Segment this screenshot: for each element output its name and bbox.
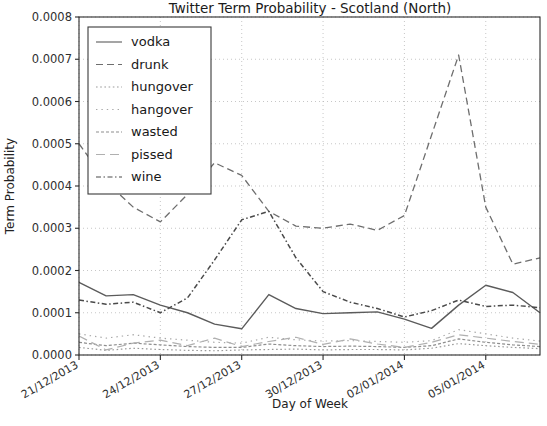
y-tick-label: 0.0008	[32, 10, 72, 24]
x-tick-label: 27/12/2013	[182, 358, 243, 401]
series-line-vodka	[79, 282, 540, 328]
legend-label-drunk: drunk	[131, 57, 169, 72]
series-line-hungover	[79, 344, 540, 351]
legend-label-vodka: vodka	[131, 34, 170, 49]
x-tick-label: 05/01/2014	[426, 358, 487, 401]
x-tick-label: 24/12/2013	[100, 358, 161, 401]
legend-label-wine: wine	[131, 169, 161, 184]
y-axis-ticks: 0.00000.00010.00020.00030.00040.00050.00…	[32, 10, 79, 362]
legend-label-pissed: pissed	[131, 147, 173, 162]
x-axis-ticks: 21/12/201324/12/201327/12/201330/12/2013…	[19, 355, 487, 401]
x-tick-label: 21/12/2013	[19, 358, 80, 401]
legend-label-wasted: wasted	[131, 124, 178, 139]
y-tick-label: 0.0005	[32, 137, 72, 151]
y-tick-label: 0.0003	[32, 221, 72, 235]
chart-title: Twitter Term Probability - Scotland (Nor…	[168, 0, 452, 16]
y-tick-label: 0.0000	[32, 348, 72, 362]
x-tick-label: 02/01/2014	[345, 358, 406, 401]
y-tick-label: 0.0006	[32, 95, 72, 109]
y-tick-label: 0.0007	[32, 52, 72, 66]
chart-figure: Twitter Term Probability - Scotland (Nor…	[0, 0, 547, 426]
series-line-wasted	[79, 339, 540, 347]
y-tick-label: 0.0002	[32, 264, 72, 278]
x-axis-label: Day of Week	[272, 397, 348, 411]
legend-label-hangover: hangover	[131, 102, 193, 117]
line-chart: Twitter Term Probability - Scotland (Nor…	[0, 0, 547, 426]
x-tick-label: 30/12/2013	[263, 358, 324, 401]
legend-label-hungover: hungover	[131, 79, 194, 94]
y-tick-label: 0.0001	[32, 306, 72, 320]
y-axis-label: Term Probability	[3, 138, 17, 235]
y-tick-label: 0.0004	[32, 179, 72, 193]
chart-legend: vodkadrunkhungoverhangoverwastedpissedwi…	[88, 27, 211, 194]
series-line-pissed	[79, 335, 540, 350]
